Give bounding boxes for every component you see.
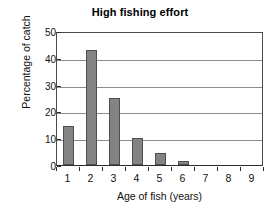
x-tick-mark [79, 167, 80, 171]
bar [132, 138, 143, 165]
x-tick-mark [171, 167, 172, 171]
chart-title: High fishing effort [0, 6, 280, 18]
y-tick-mark [57, 166, 61, 167]
x-tick-mark [56, 167, 57, 171]
x-tick-label: 5 [148, 172, 172, 184]
bar [86, 50, 97, 165]
x-tick-label: 7 [194, 172, 218, 184]
y-tick-mark [57, 86, 61, 87]
y-tick-label: 0 [30, 161, 56, 172]
x-tick-mark [194, 167, 195, 171]
plot-area [56, 32, 263, 166]
bar [63, 126, 74, 165]
bar [178, 161, 189, 165]
y-tick-mark [57, 112, 61, 113]
y-tick-mark [57, 59, 61, 60]
x-tick-label: 4 [125, 172, 149, 184]
y-tick-label: 40 [30, 53, 56, 64]
x-tick-label: 3 [102, 172, 126, 184]
bar [155, 153, 166, 165]
bar [109, 98, 120, 165]
x-tick-label: 6 [171, 172, 195, 184]
y-tick-label: 30 [30, 80, 56, 91]
x-tick-mark [125, 167, 126, 171]
x-tick-mark [263, 167, 264, 171]
y-tick-label: 20 [30, 107, 56, 118]
x-tick-label: 1 [56, 172, 80, 184]
x-tick-label: 2 [79, 172, 103, 184]
x-tick-mark [240, 167, 241, 171]
y-tick-mark [57, 32, 61, 33]
y-tick-label: 10 [30, 134, 56, 145]
x-tick-label: 9 [240, 172, 264, 184]
x-tick-mark [217, 167, 218, 171]
x-tick-mark [102, 167, 103, 171]
x-axis-label: Age of fish (years) [56, 190, 263, 202]
y-tick-mark [57, 139, 61, 140]
x-tick-label: 8 [217, 172, 241, 184]
chart-figure: High fishing effort Percentage of catch … [0, 0, 280, 215]
y-tick-label: 50 [30, 27, 56, 38]
x-tick-mark [148, 167, 149, 171]
